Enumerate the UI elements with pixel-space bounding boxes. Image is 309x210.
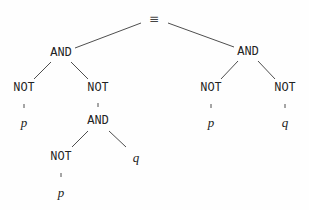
tree-edges [0, 0, 309, 210]
var-p-leaf-1: p [21, 116, 28, 129]
var-q-leaf-1: q [282, 116, 289, 129]
not-node-left-left: NOT [13, 82, 35, 94]
not-node-left-right: NOT [87, 82, 109, 94]
not-node-nested: NOT [50, 151, 72, 163]
tree-edge [75, 23, 141, 48]
not-node-right-left: NOT [200, 82, 222, 94]
tree-edge [168, 23, 234, 47]
and-node-nested: AND [87, 115, 109, 127]
var-p-leaf-3: p [58, 186, 65, 199]
tree-edge [221, 61, 238, 79]
and-node-left: AND [50, 47, 72, 59]
var-q-leaf-2: q [133, 151, 140, 164]
not-node-right-right: NOT [274, 82, 296, 94]
tree-edge [109, 131, 126, 147]
expression-tree-diagram: ≡ AND AND NOT NOT NOT NOT p AND p q NOT … [0, 0, 309, 210]
var-p-leaf-2: p [208, 116, 215, 129]
tree-edge [71, 62, 88, 79]
and-node-right: AND [237, 46, 259, 58]
tree-edge [34, 62, 51, 79]
tree-edge [72, 131, 88, 147]
tree-edge [258, 61, 275, 79]
root-equivalence-node: ≡ [149, 13, 159, 25]
